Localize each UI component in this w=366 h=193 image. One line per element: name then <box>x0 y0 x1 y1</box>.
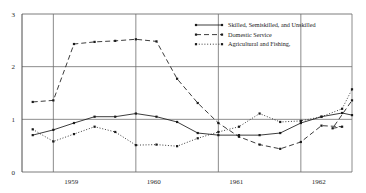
data-point-marker <box>94 116 96 118</box>
data-point-marker <box>341 126 343 128</box>
data-point-marker <box>331 127 333 129</box>
data-point-marker <box>32 101 34 103</box>
data-point-marker <box>135 112 137 114</box>
data-point-marker <box>155 144 157 146</box>
x-axis-tick-label: 1962 <box>312 178 327 186</box>
data-point-marker <box>341 108 343 110</box>
data-point-marker <box>259 144 261 146</box>
data-point-marker <box>114 40 116 42</box>
data-point-marker <box>300 122 302 124</box>
legend-marker-start <box>195 43 197 45</box>
data-point-marker <box>176 121 178 123</box>
data-point-marker <box>300 141 302 143</box>
legend-label-1: Skilled, Semiskilled, and Unskilled <box>228 21 316 28</box>
series-1 <box>32 112 353 136</box>
data-point-marker <box>238 136 240 138</box>
data-point-marker <box>197 137 199 139</box>
data-point-marker <box>351 88 353 90</box>
line-chart: 01231959196019611962Skilled, Semiskilled… <box>0 0 366 193</box>
data-point-marker <box>73 43 75 45</box>
y-axis-tick-label: 3 <box>12 11 16 19</box>
legend-marker-end <box>221 43 223 45</box>
chart-container: 01231959196019611962Skilled, Semiskilled… <box>0 0 366 193</box>
data-point-marker <box>217 122 219 124</box>
legend-marker-end <box>221 34 223 36</box>
legend-marker-start <box>195 34 197 36</box>
data-point-marker <box>155 116 157 118</box>
series-2 <box>32 38 353 150</box>
data-point-marker <box>176 145 178 147</box>
data-point-marker <box>155 40 157 42</box>
data-point-marker <box>197 102 199 104</box>
data-point-marker <box>217 134 219 136</box>
data-point-marker <box>52 99 54 101</box>
legend-label-3: Agricultural and Fishing, <box>228 40 291 47</box>
data-point-marker <box>259 134 261 136</box>
y-axis-tick-label: 0 <box>12 169 16 177</box>
data-point-marker <box>300 120 302 122</box>
data-point-marker <box>351 114 353 116</box>
data-point-marker <box>73 122 75 124</box>
data-point-marker <box>320 116 322 118</box>
legend-marker-start <box>195 24 197 26</box>
x-axis-tick-label: 1959 <box>64 178 79 186</box>
x-axis-tick-label: 1960 <box>147 178 162 186</box>
data-point-marker <box>135 144 137 146</box>
y-axis-tick-label: 2 <box>12 63 16 71</box>
data-point-marker <box>279 148 281 150</box>
data-point-marker <box>32 134 34 136</box>
data-point-marker <box>197 132 199 134</box>
legend-marker-end <box>221 24 223 26</box>
data-point-marker <box>351 99 353 101</box>
data-point-marker <box>52 129 54 131</box>
series-line <box>33 89 352 146</box>
series-line <box>33 113 352 135</box>
data-point-marker <box>279 121 281 123</box>
data-point-marker <box>32 128 34 130</box>
series-line <box>33 39 352 149</box>
legend-label-2: Domestic Service <box>228 31 272 38</box>
x-axis-tick-label: 1961 <box>229 178 244 186</box>
data-point-marker <box>217 131 219 133</box>
chart-legend: Skilled, Semiskilled, and UnskilledDomes… <box>195 21 316 47</box>
data-point-marker <box>176 78 178 80</box>
data-point-marker <box>238 126 240 128</box>
data-point-marker <box>135 38 137 40</box>
data-point-marker <box>94 126 96 128</box>
data-point-marker <box>114 131 116 133</box>
data-point-marker <box>114 116 116 118</box>
data-point-marker <box>341 112 343 114</box>
data-point-marker <box>279 132 281 134</box>
data-point-marker <box>73 133 75 135</box>
y-axis-tick-label: 1 <box>12 116 16 124</box>
data-point-marker <box>320 125 322 127</box>
data-point-marker <box>94 41 96 43</box>
data-point-marker <box>52 140 54 142</box>
data-point-marker <box>259 112 261 114</box>
